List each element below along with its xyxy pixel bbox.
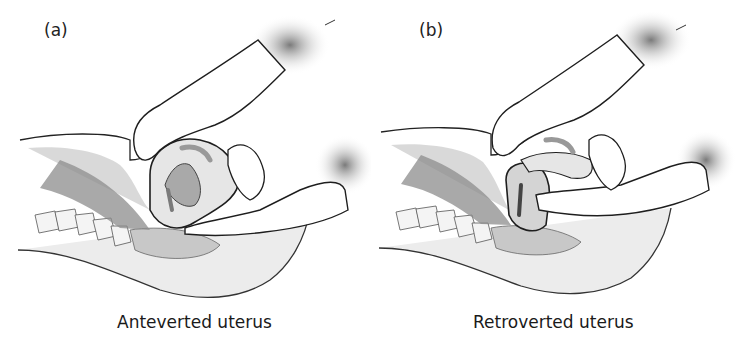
bimanual-exam-illustration-b (371, 0, 742, 344)
panel-caption: Anteverted uterus (117, 312, 272, 332)
uterus-retroverted (506, 140, 592, 231)
panel-caption: Retroverted uterus (473, 312, 634, 332)
bimanual-exam-illustration-a (0, 0, 371, 344)
panel-anteverted: (a) Anteverted uterus (0, 0, 371, 344)
abdominal-hand (492, 35, 644, 156)
panel-retroverted: (b) Retroverted uterus (371, 0, 742, 344)
panel-label: (a) (44, 20, 68, 40)
panel-label: (b) (419, 20, 443, 40)
uterus-anteverted (150, 139, 238, 228)
